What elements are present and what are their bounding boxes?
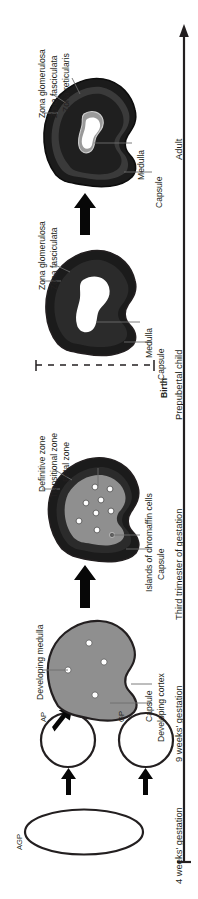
gland-9weeks-shape	[42, 621, 152, 721]
diagram-canvas	[0, 0, 198, 899]
label-zona-reticularis-adult: Zona reticularis	[62, 53, 71, 112]
label-medulla-prepubertal: Medulla	[145, 328, 154, 358]
label-agp-primordium: AGP	[16, 834, 24, 850]
timeline-stage-third-trimester: Third trimester of gestation	[174, 508, 183, 620]
ap-primordium-shape	[41, 713, 95, 767]
label-fetal-zone: Fetal zone	[62, 442, 71, 482]
label-developing-cortex: Developing cortex	[157, 673, 166, 742]
label-transitional-zone: Transitional zone	[50, 433, 59, 498]
label-zona-glomerulosa-prepubertal: Zona glomerulosa	[38, 221, 47, 290]
label-islands-of-chromaffin-cells: Islands of chromaffin cells	[145, 493, 154, 592]
label-zona-glomerulosa-adult: Zona glomerulosa	[38, 49, 47, 118]
timeline-stage-prepubertal: Prepubertal child	[174, 350, 183, 420]
agp-primordium-shape	[25, 810, 143, 855]
label-zona-fasciculata-prepubertal: Zona fasciculata	[50, 227, 59, 290]
arrow-prepubertal-to-adult	[74, 193, 96, 235]
label-gp-primordium: GP	[118, 711, 126, 722]
label-capsule-third-trimester: Capsule	[157, 548, 166, 580]
label-capsule-adult: Capsule	[155, 176, 164, 208]
timeline-stage-adult: Adult	[174, 139, 183, 160]
arrow-agp-to-ap	[61, 768, 76, 795]
label-capsule-prepubertal: Capsule	[157, 348, 166, 380]
label-definitive-zone: Definitive zone	[38, 436, 47, 492]
arrow-agp-to-gp	[138, 768, 153, 795]
label-developing-medulla: Developing medulla	[36, 625, 45, 700]
label-zona-fasciculata-adult: Zona fasciculata	[50, 55, 59, 118]
label-capsule-9weeks: Capsule	[145, 690, 154, 722]
birth-marker-line	[36, 360, 154, 371]
arrow-9weeks-to-third-trimester	[74, 565, 96, 608]
label-ap-primordium: AP	[40, 712, 48, 722]
timeline-stage-4weeks: 4 weeks' gestation	[174, 807, 183, 884]
adrenal-development-diagram: Zona glomerulosa Zona fasciculata Zona r…	[0, 0, 198, 899]
birth-marker-label: Birth	[160, 378, 169, 398]
label-medulla-adult: Medulla	[137, 150, 146, 180]
timeline-stage-9weeks: 9 weeks' gestation	[174, 685, 183, 762]
